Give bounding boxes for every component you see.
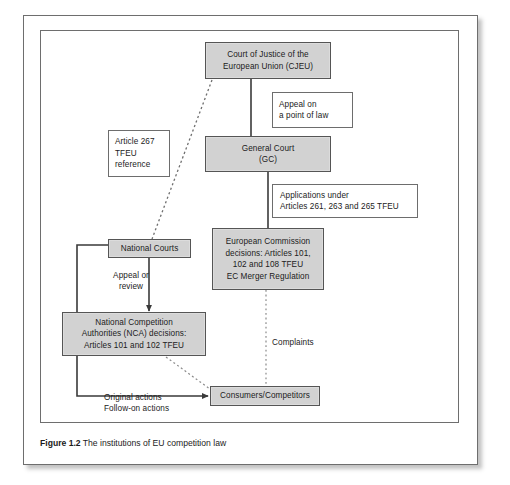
- edge-label-appeal-or-review: Appeal or review: [100, 268, 162, 294]
- node-article-267-label: Article 267 TFEU reference: [115, 136, 169, 171]
- node-consumers-label: Consumers/Competitors: [211, 390, 319, 402]
- node-national-courts-label: National Courts: [109, 243, 190, 255]
- edge-label-complaints: Complaints: [272, 336, 342, 350]
- node-general-court[interactable]: General Court (GC): [205, 136, 331, 172]
- node-general-court-label: General Court (GC): [206, 143, 330, 166]
- figure-caption-text: The institutions of EU competition law: [83, 438, 226, 448]
- node-appeal-label: Appeal on a point of law: [279, 99, 352, 122]
- edge-label-original-follow-on-actions: Original actions Follow-on actions: [104, 390, 204, 416]
- node-applications-label: Applications under Articles 261, 263 and…: [280, 190, 417, 213]
- node-european-commission-label: European Commission decisions: Articles …: [213, 236, 323, 282]
- figure-caption-label: Figure 1.2: [40, 438, 81, 448]
- figure-page: Court of Justice of the European Union (…: [0, 0, 510, 485]
- node-appeal-point-of-law[interactable]: Appeal on a point of law: [272, 92, 353, 128]
- node-applications-under-articles[interactable]: Applications under Articles 261, 263 and…: [272, 184, 418, 218]
- edge-label-original-follow-on-text: Original actions Follow-on actions: [104, 392, 204, 415]
- node-article-267-reference[interactable]: Article 267 TFEU reference: [108, 130, 170, 177]
- node-national-competition-authorities[interactable]: National Competition Authorities (NCA) d…: [62, 312, 206, 356]
- node-consumers-competitors[interactable]: Consumers/Competitors: [210, 386, 320, 406]
- diagram-frame: [40, 30, 459, 423]
- node-nca-label: National Competition Authorities (NCA) d…: [63, 317, 205, 352]
- node-european-commission[interactable]: European Commission decisions: Articles …: [212, 228, 324, 290]
- figure-caption: Figure 1.2 The institutions of EU compet…: [40, 437, 440, 449]
- node-court-of-justice[interactable]: Court of Justice of the European Union (…: [205, 42, 331, 79]
- node-national-courts[interactable]: National Courts: [108, 239, 191, 258]
- edge-label-appeal-or-review-text: Appeal or review: [100, 270, 162, 293]
- edge-label-complaints-text: Complaints: [272, 337, 342, 349]
- node-cjeu-label: Court of Justice of the European Union (…: [206, 49, 330, 72]
